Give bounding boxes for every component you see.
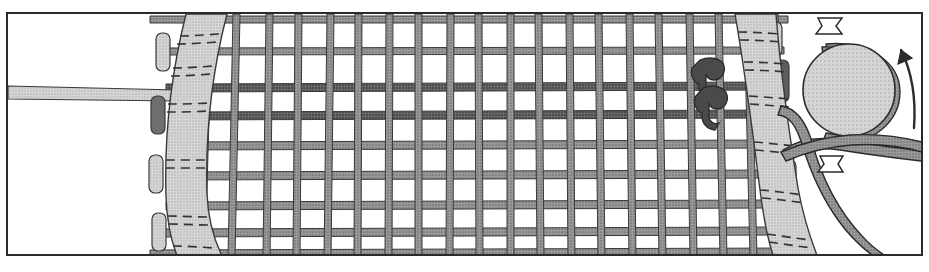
figure-canvas [0, 0, 929, 272]
mesh-v-bar-9 [475, 14, 483, 258]
mesh-v-bar-7 [415, 14, 422, 258]
mesh-h-bar-3 [170, 110, 778, 120]
mesh-v-bar-6 [385, 14, 393, 258]
mesh-v-bar-10 [507, 14, 514, 258]
mesh-v-bar-12 [566, 14, 575, 258]
left-strap-tab-2 [149, 155, 163, 193]
mesh-v-bar-5 [354, 14, 362, 258]
cord-drum [803, 44, 895, 136]
left-strap-tab-1 [151, 96, 165, 134]
mesh-v-bar-3 [293, 14, 302, 258]
mesh-v-bar-8 [446, 14, 454, 258]
technical-illustration [0, 0, 929, 272]
left-strap-tab-3 [152, 213, 166, 251]
caption-strip [0, 260, 929, 272]
mesh-v-bar-11 [535, 14, 544, 258]
left-strap-tab-0 [156, 33, 170, 71]
mesh-h-bar-5 [172, 170, 778, 180]
